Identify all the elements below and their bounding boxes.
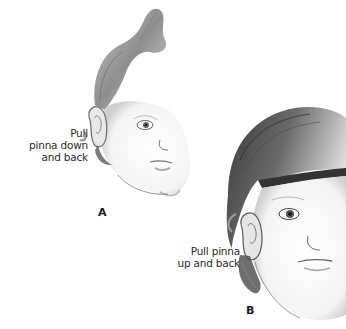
instruction-line: Pull: [28, 127, 88, 139]
panel-letter-a: A: [98, 206, 107, 219]
ear-examination-illustration: [0, 0, 346, 329]
panel-b-head: [227, 107, 346, 320]
panel-letter-b: B: [246, 304, 254, 317]
instruction-line: up and back: [158, 257, 240, 269]
instruction-line: pinna down: [28, 139, 88, 151]
instruction-line: and back: [28, 151, 88, 163]
instruction-label-a: Pull pinna down and back: [28, 127, 88, 163]
instruction-label-b: Pull pinna up and back: [158, 245, 240, 269]
panel-a-head: [89, 9, 190, 196]
instruction-line: Pull pinna: [158, 245, 240, 257]
